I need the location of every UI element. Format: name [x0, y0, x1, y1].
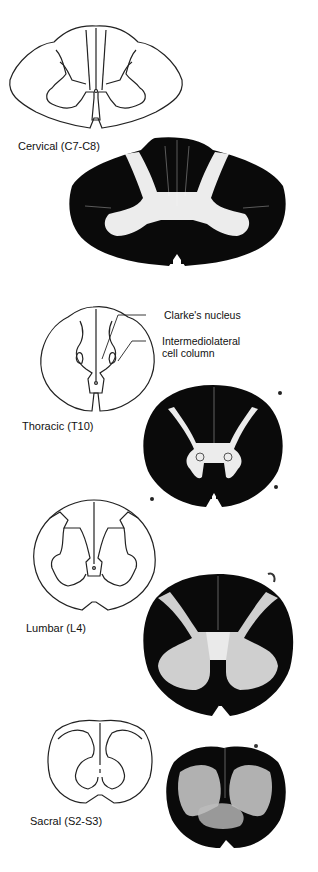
thoracic-label: Thoracic (T10) — [22, 420, 94, 432]
clarkes-nucleus-callout: Clarke's nucleus — [164, 309, 241, 321]
cervical-histology-section — [65, 136, 290, 276]
sacral-histology-section — [160, 742, 290, 854]
thoracic-histology-section — [138, 383, 288, 513]
lumbar-histology-section — [138, 572, 298, 722]
lumbar-label: Lumbar (L4) — [26, 622, 86, 634]
sacral-outline-diagram — [44, 717, 156, 807]
sacral-label: Sacral (S2-S3) — [30, 815, 102, 827]
cervical-outline-diagram — [6, 22, 186, 132]
intermediolateral-callout-line1: Intermediolateral — [162, 335, 240, 347]
intermediolateral-callout-line2: cell column — [162, 347, 215, 359]
